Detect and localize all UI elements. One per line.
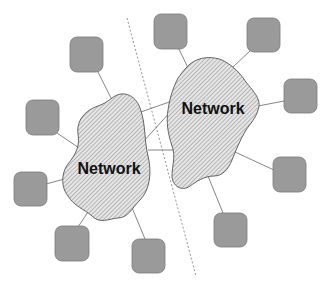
- network-label-right: Network: [181, 100, 244, 117]
- network-cloud-right: Network: [167, 58, 259, 189]
- nodes: [14, 14, 317, 273]
- node-box: [214, 213, 247, 247]
- network-cloud-left: Network: [63, 94, 150, 221]
- node-box: [273, 157, 306, 192]
- network-diagram: Network Network: [0, 0, 330, 284]
- node-box: [154, 14, 187, 49]
- node-box: [132, 239, 165, 273]
- node-box: [55, 226, 89, 261]
- node-box: [26, 100, 59, 135]
- node-box: [70, 37, 103, 72]
- network-label-left: Network: [77, 160, 140, 177]
- node-box: [14, 172, 47, 206]
- node-box: [247, 18, 280, 52]
- node-box: [284, 79, 317, 113]
